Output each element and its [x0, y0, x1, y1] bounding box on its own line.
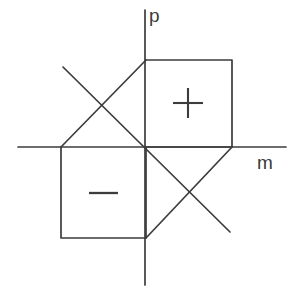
m-axis-label: m	[257, 153, 273, 172]
p-axis-label: p	[149, 6, 160, 25]
upper-left-slant-edge	[61, 60, 146, 147]
signed-square-diagram	[0, 0, 294, 298]
diagram-canvas: p m	[0, 0, 294, 298]
plus-sign-icon	[173, 88, 203, 118]
